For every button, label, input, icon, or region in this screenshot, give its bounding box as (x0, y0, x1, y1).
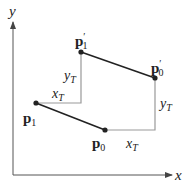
x-axis-label: x (174, 167, 182, 183)
translation-guide-p0 (105, 78, 155, 130)
label-p0-prime: p′0 (151, 58, 164, 78)
translation-diagram: y x p1 p0 p′1 p′0 yT xT yT xT (0, 0, 189, 190)
label-p1-prime: p′1 (75, 31, 88, 51)
segment-translated (81, 52, 155, 78)
label-xT-bottom: xT (125, 136, 139, 153)
label-p0: p0 (92, 135, 105, 153)
point-p1 (33, 100, 38, 105)
point-p0-prime (152, 75, 157, 80)
label-xT-top: xT (51, 86, 65, 103)
label-p1: p1 (23, 110, 36, 128)
segment-original (36, 103, 105, 130)
point-p0 (102, 127, 107, 132)
label-yT-top: yT (62, 68, 77, 85)
y-axis-label: y (7, 3, 16, 19)
label-yT-bottom: yT (158, 96, 173, 113)
